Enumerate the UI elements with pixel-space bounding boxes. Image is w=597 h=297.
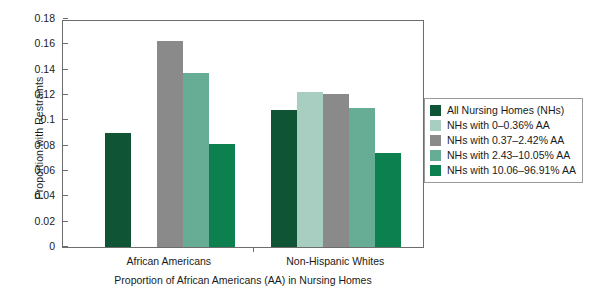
bar xyxy=(375,153,401,247)
legend-item: NHs with 0–0.36% AA xyxy=(430,118,576,133)
bar xyxy=(349,108,375,247)
bar xyxy=(157,41,183,247)
x-axis-group-label-african-americans: African Americans xyxy=(79,255,259,267)
x-axis-group-separator-tick xyxy=(253,247,254,252)
y-axis-tick-label: 0.02 xyxy=(35,215,55,227)
legend-swatch-icon xyxy=(430,150,441,161)
legend-item: All Nursing Homes (NHs) xyxy=(430,103,576,118)
legend-item-label: NHs with 0.37–2.42% AA xyxy=(447,135,564,146)
legend-item: NHs with 0.37–2.42% AA xyxy=(430,133,576,148)
y-axis-tick-label: 0.18 xyxy=(35,12,55,24)
x-axis-group-label-non-hispanic-whites: Non-Hispanic Whites xyxy=(245,255,425,267)
legend-item: NHs with 2.43–10.05% AA xyxy=(430,148,576,163)
y-axis-tick-label: 0.1 xyxy=(40,113,55,125)
legend-item-label: NHs with 10.06–96.91% AA xyxy=(447,165,576,176)
bars-layer xyxy=(63,21,423,247)
legend-item-label: NHs with 2.43–10.05% AA xyxy=(447,150,570,161)
y-axis-tick-label: 0.16 xyxy=(35,37,55,49)
y-axis-tick-label: 0 xyxy=(49,240,55,252)
bar xyxy=(105,133,131,247)
plot-area: 00.020.040.060.080.10.120.140.160.18 xyxy=(62,20,424,248)
legend-swatch-icon xyxy=(430,135,441,146)
y-axis-tick-label: 0.12 xyxy=(35,88,55,100)
bar xyxy=(209,144,235,247)
legend-item: NHs with 10.06–96.91% AA xyxy=(430,163,576,178)
legend-item-label: All Nursing Homes (NHs) xyxy=(447,105,564,116)
y-axis-tick-label: 0.04 xyxy=(35,189,55,201)
y-axis-tick-mark xyxy=(63,18,68,19)
legend-swatch-icon xyxy=(430,120,441,131)
y-axis-tick-label: 0.08 xyxy=(35,139,55,151)
legend-swatch-icon xyxy=(430,165,441,176)
bar xyxy=(183,73,209,247)
x-axis-title: Proportion of African Americans (AA) in … xyxy=(62,274,424,286)
legend-item-label: NHs with 0–0.36% AA xyxy=(447,120,550,131)
bar xyxy=(323,94,349,247)
bar xyxy=(271,110,297,247)
legend-swatch-icon xyxy=(430,105,441,116)
y-axis-tick-label: 0.14 xyxy=(35,63,55,75)
y-axis-tick-label: 0.06 xyxy=(35,164,55,176)
chart-legend: All Nursing Homes (NHs)NHs with 0–0.36% … xyxy=(424,98,583,183)
bar-chart-figure: Proportion with Restraints 00.020.040.06… xyxy=(0,0,597,297)
bar xyxy=(297,92,323,247)
